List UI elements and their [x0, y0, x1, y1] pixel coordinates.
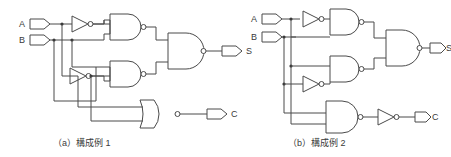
output-label-s: S — [246, 46, 252, 56]
input-label-b: B — [251, 32, 257, 42]
input-label-a: A — [251, 14, 257, 24]
nand-3[interactable] — [386, 30, 430, 66]
nand-1[interactable] — [110, 14, 168, 40]
input-pad-b[interactable] — [30, 35, 62, 45]
inverter-1[interactable] — [303, 11, 330, 27]
nand-3[interactable] — [168, 33, 222, 69]
nand-2[interactable] — [330, 56, 386, 82]
input-pad-a[interactable] — [30, 19, 72, 29]
caption-a: （a）構成例 1 — [53, 137, 111, 148]
junction-a-bus — [289, 17, 292, 20]
output-pad-c[interactable] — [415, 112, 431, 122]
input-label-a: A — [19, 19, 25, 29]
circuit-b: A B — [251, 9, 451, 148]
nand-1[interactable] — [330, 9, 386, 38]
junction-a1 — [60, 22, 63, 25]
output-pad-s[interactable] — [430, 43, 446, 53]
circuit-a: A B — [19, 14, 252, 148]
junction-b1 — [52, 38, 55, 41]
figure-canvas: A B — [0, 0, 451, 157]
output-label-c: C — [432, 112, 439, 122]
nand-4[interactable] — [326, 101, 378, 133]
output-label-c: C — [231, 109, 238, 119]
inverter-3[interactable] — [378, 109, 415, 125]
output-pad-c[interactable] — [207, 109, 227, 119]
input-label-b: B — [19, 35, 25, 45]
inverter-2[interactable] — [303, 76, 330, 92]
caption-b: （b）構成例 2 — [288, 137, 346, 148]
output-pad-s[interactable] — [222, 46, 242, 56]
input-pad-a[interactable] — [262, 14, 300, 24]
nor-1[interactable] — [140, 100, 207, 128]
nand-2[interactable] — [110, 61, 168, 87]
output-label-s: S — [446, 43, 451, 53]
junction-b-bus — [282, 35, 285, 38]
